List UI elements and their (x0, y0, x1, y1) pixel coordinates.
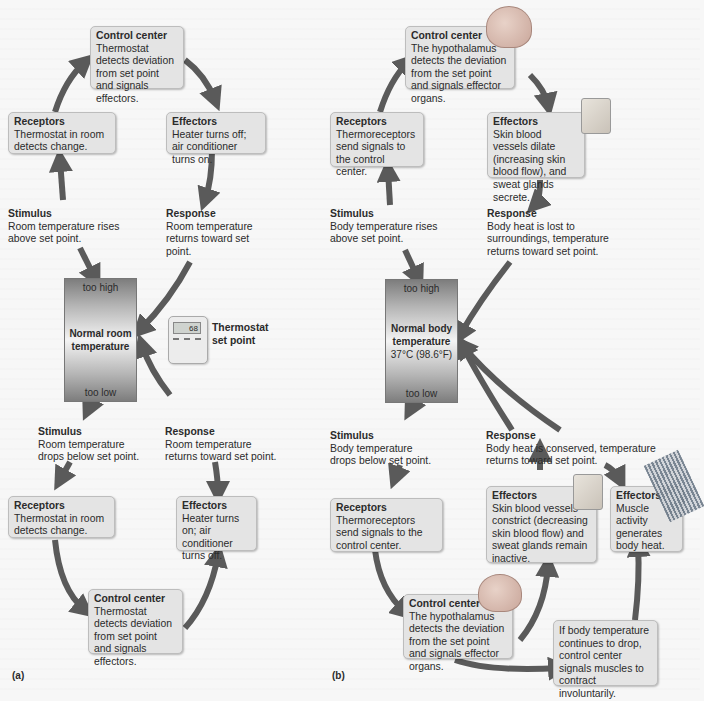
thermostat-display: 68 (173, 322, 201, 334)
response-text: Body heat is lost to surroundings, tempe… (487, 221, 609, 257)
stimulus-title: Stimulus (38, 426, 148, 439)
gauge-too-high: too high (65, 282, 136, 293)
receptors-text: Thermoreceptors send signals to the cont… (336, 515, 423, 551)
thermostat-icon: 68 (168, 316, 208, 364)
effectors-text: Heater turns off; air conditioner turns … (172, 129, 246, 165)
control-center-title: Control center (94, 593, 177, 606)
stimulus-title: Stimulus (8, 208, 128, 221)
thermostat-label-line1: Thermostat (212, 322, 269, 335)
receptors-title: Receptors (336, 502, 437, 515)
effectors-box-a-top: Effectors Heater turns off; air conditio… (166, 112, 266, 154)
stimulus-title: Stimulus (330, 208, 440, 221)
temperature-gauge-b: too high Normal body temperature 37°C (9… (385, 279, 458, 403)
response-text: Room temperature returns toward set poin… (165, 439, 276, 463)
receptors-box-b-bottom: Receptors Thermoreceptors send signals t… (330, 498, 443, 552)
gauge-too-high: too high (386, 283, 457, 294)
response-title: Response (486, 430, 666, 443)
skin-tissue-icon (573, 474, 603, 510)
control-center-box-a-bottom: Control center Thermostat detects deviat… (88, 589, 183, 654)
response-text: Room temperature returns toward set poin… (166, 221, 253, 257)
response-label-a-bottom: Response Room temperature returns toward… (165, 426, 280, 464)
receptors-box-a-top: Receptors Thermostat in room detects cha… (8, 112, 116, 154)
receptors-text: Thermoreceptors send signals to the cont… (336, 129, 415, 178)
gauge-center-line2: temperature (386, 335, 457, 348)
effectors-title: Effectors (172, 116, 260, 129)
response-label-b-top: Response Body heat is lost to surroundin… (487, 208, 612, 258)
gauge-center-line1: Normal body (386, 322, 457, 335)
receptors-title: Receptors (336, 116, 418, 129)
shivering-note-box: If body temperature continues to drop, c… (553, 620, 658, 686)
stimulus-text: Room temperature rises above set point. (8, 221, 119, 245)
receptors-text: Thermostat in room detects change. (14, 513, 104, 537)
control-center-text: Thermostat detects deviation from set po… (96, 43, 174, 104)
effectors-title: Effectors (182, 500, 251, 513)
effectors-title: Effectors (493, 116, 579, 129)
control-center-box-a-top: Control center Thermostat detects deviat… (90, 26, 184, 89)
brain-icon (486, 6, 532, 48)
skin-tissue-icon (581, 98, 611, 134)
receptors-text: Thermostat in room detects change. (14, 129, 104, 153)
stimulus-text: Body temperature rises above set point. (330, 221, 437, 245)
response-text: Body heat is conserved, temperature retu… (486, 443, 656, 467)
gauge-set-point-value: 37°C (98.6°F) (386, 348, 457, 361)
panel-label-b: (b) (332, 670, 345, 681)
effectors-text: Heater turns on; air conditioner turns o… (182, 513, 239, 562)
stimulus-label-b-top: Stimulus Body temperature rises above se… (330, 208, 440, 246)
temperature-gauge-a: too high Normal room temperature too low (64, 278, 137, 402)
receptors-title: Receptors (14, 116, 110, 129)
control-center-text: The hypothalamus detects the deviation f… (409, 611, 504, 672)
control-center-text: Thermostat detects deviation from set po… (94, 606, 172, 667)
effectors-text: Muscle activity generates body heat. (616, 503, 665, 552)
stimulus-text: Body temperature drops below set point. (330, 443, 431, 467)
gauge-too-low: too low (386, 388, 457, 399)
thermostat-label-line2: set point (212, 335, 269, 348)
receptors-title: Receptors (14, 500, 109, 513)
stimulus-label-b-bottom: Stimulus Body temperature drops below se… (330, 430, 440, 468)
panel-label-a: (a) (12, 670, 24, 681)
response-title: Response (487, 208, 612, 221)
stimulus-label-a-bottom: Stimulus Room temperature drops below se… (38, 426, 148, 464)
response-label-b-bottom: Response Body heat is conserved, tempera… (486, 430, 666, 468)
receptors-box-a-bottom: Receptors Thermostat in room detects cha… (8, 496, 115, 538)
response-title: Response (165, 426, 280, 439)
effectors-box-a-bottom: Effectors Heater turns on; air condition… (176, 496, 257, 551)
stimulus-text: Room temperature drops below set point. (38, 439, 139, 463)
control-center-text: The hypothalamus detects the deviation f… (411, 43, 506, 104)
stimulus-label-a-top: Stimulus Room temperature rises above se… (8, 208, 128, 246)
response-label-a-top: Response Room temperature returns toward… (166, 208, 256, 258)
gauge-center-line2: temperature (65, 340, 136, 353)
receptors-box-b-top: Receptors Thermoreceptors send signals t… (330, 112, 424, 167)
effectors-text: Skin blood vessels dilate (increasing sk… (493, 129, 566, 203)
thermostat-set-point-label: Thermostat set point (212, 322, 269, 347)
stimulus-title: Stimulus (330, 430, 440, 443)
effectors-text: Skin blood vessels constrict (decreasing… (492, 503, 588, 564)
gauge-too-low: too low (65, 387, 136, 398)
response-title: Response (166, 208, 256, 221)
gauge-center-line1: Normal room (65, 327, 136, 340)
brain-icon (478, 574, 522, 612)
effectors-box-b-top: Effectors Skin blood vessels dilate (inc… (487, 112, 585, 178)
control-center-title: Control center (96, 30, 178, 43)
